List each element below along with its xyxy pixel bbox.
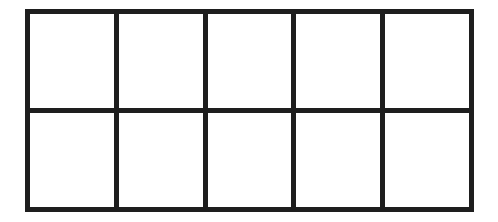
grid-cell-r2c1 bbox=[30, 113, 114, 207]
grid-cell-r2c2 bbox=[119, 113, 203, 207]
grid-cell-r2c3 bbox=[208, 113, 292, 207]
grid-cell-r1c2 bbox=[119, 14, 203, 108]
grid-cell-r1c3 bbox=[208, 14, 292, 108]
canvas bbox=[0, 0, 498, 222]
grid-cell-r1c1 bbox=[30, 14, 114, 108]
grid-cell-r2c5 bbox=[385, 113, 469, 207]
grid-cell-r1c5 bbox=[385, 14, 469, 108]
grid-cell-r2c4 bbox=[296, 113, 380, 207]
grid-2x5 bbox=[25, 9, 474, 212]
grid-cell-r1c4 bbox=[296, 14, 380, 108]
